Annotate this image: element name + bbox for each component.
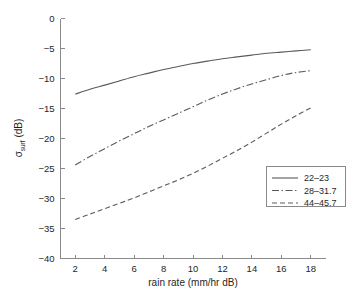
y-axis-title: σsurf (dB) [13, 119, 26, 158]
x-tick-label: 10 [188, 263, 199, 274]
y-axis-title-unit: (dB) [13, 119, 24, 141]
legend-label-2: 44–45.7 [304, 198, 337, 208]
y-tick-label: 0 [49, 13, 54, 24]
line-chart: 0−5−10−15−20−25−30−35−40 24681012141618 … [0, 0, 356, 291]
y-tick-label: −35 [38, 223, 54, 234]
legend-label-0: 22–23 [304, 173, 329, 183]
y-tick-label: −15 [38, 103, 54, 114]
figure-container: 0−5−10−15−20−25−30−35−40 24681012141618 … [0, 0, 356, 291]
x-axis-title: rain rate (mm/hr dB) [148, 277, 237, 288]
svg-text:σsurf (dB): σsurf (dB) [13, 119, 26, 158]
y-tick-label: −5 [44, 43, 55, 54]
x-tick-label: 6 [131, 263, 136, 274]
y-tick-label: −25 [38, 163, 54, 174]
x-tick-label: 16 [276, 263, 287, 274]
x-tick-label: 14 [247, 263, 258, 274]
y-tick-label: −10 [38, 73, 54, 84]
y-tick-label: −30 [38, 193, 54, 204]
x-tick-label: 12 [217, 263, 228, 274]
x-tick-label: 8 [161, 263, 166, 274]
legend[interactable]: 22–2328–31.744–45.7 [267, 167, 346, 209]
y-tick-label: −20 [38, 133, 54, 144]
x-tick-label: 18 [305, 263, 316, 274]
y-axis-title-subscript: surf [19, 140, 26, 151]
y-tick-label: −40 [38, 253, 54, 264]
legend-label-1: 28–31.7 [304, 186, 337, 196]
x-tick-label: 4 [102, 263, 107, 274]
x-tick-label: 2 [73, 263, 78, 274]
